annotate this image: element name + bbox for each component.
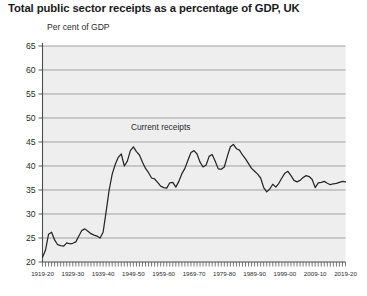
x-axis-tick-label: 1929-30 — [61, 270, 84, 277]
y-axis-tick-label: 20 — [26, 257, 36, 267]
x-axis-ticks: 1919-201929-301939-401949-501959-601969-… — [31, 262, 357, 277]
x-axis-tick-label: 2009-10 — [304, 270, 327, 277]
x-axis-tick-label: 1989-90 — [243, 270, 266, 277]
x-axis-tick-label: 2019-20 — [334, 270, 357, 277]
x-axis-tick-label: 1979-80 — [213, 270, 236, 277]
chart-plot-area: 20253035404550556065 1919-201929-301939-… — [0, 0, 367, 296]
x-axis-tick-label: 1969-70 — [183, 270, 206, 277]
plot-background — [43, 46, 346, 262]
y-axis-tick-label: 35 — [26, 185, 36, 195]
x-axis-tick-label: 1959-60 — [152, 270, 175, 277]
y-axis-tick-label: 50 — [26, 113, 36, 123]
x-axis-tick-label: 1949-50 — [122, 270, 145, 277]
y-axis-tick-label: 45 — [26, 137, 36, 147]
chart-container: Total public sector receipts as a percen… — [0, 0, 367, 296]
x-axis-tick-label: 1919-20 — [31, 270, 54, 277]
y-axis-tick-label: 65 — [26, 41, 36, 51]
series-label-current-receipts: Current receipts — [131, 122, 191, 132]
y-axis-tick-label: 40 — [26, 161, 36, 171]
x-axis-tick-label: 1939-40 — [92, 270, 115, 277]
y-axis-tick-label: 30 — [26, 209, 36, 219]
y-axis-tick-label: 25 — [26, 233, 36, 243]
x-axis-tick-label: 1999-00 — [274, 270, 297, 277]
y-axis-tick-label: 55 — [26, 89, 36, 99]
y-axis-ticks: 20253035404550556065 — [26, 41, 43, 267]
y-axis-tick-label: 60 — [26, 65, 36, 75]
series-annotations: Current receipts — [131, 122, 191, 132]
